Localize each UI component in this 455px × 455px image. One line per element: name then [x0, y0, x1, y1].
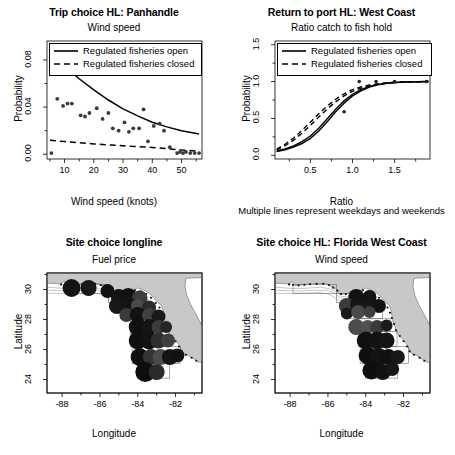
data-point — [193, 151, 197, 155]
coast-marker — [309, 283, 311, 285]
x-tick-label: -86 — [314, 399, 342, 409]
data-point — [168, 145, 172, 149]
data-point — [83, 115, 87, 119]
coast-marker — [413, 354, 415, 356]
coast-marker — [389, 312, 391, 314]
figure-note: Multiple lines represent weekdays and we… — [228, 205, 455, 216]
y-tick-label: 26 — [23, 336, 33, 362]
panel-site-choice-longline: Site choice longlineFuel price-88-86-84-… — [0, 230, 228, 455]
dashed-line-swatch-icon — [281, 59, 307, 69]
y-axis-label: Probability — [13, 69, 24, 129]
data-point — [188, 151, 192, 155]
y-tick-label: 0.5 — [251, 104, 261, 130]
coast-marker — [60, 283, 62, 285]
data-point — [79, 113, 83, 117]
data-point — [66, 102, 70, 106]
coast-marker — [298, 284, 300, 286]
data-point — [70, 102, 74, 106]
panel-return-to-port-west-coast: Return to port HL: West CoastRatio catch… — [228, 0, 455, 215]
panel-site-choice-hl-florida-west-coast: Site choice HL: Florida West CoastWind s… — [228, 230, 455, 455]
data-point — [49, 151, 53, 155]
legend-item: Regulated fisheries closed — [278, 57, 431, 70]
x-tick-label: -88 — [276, 399, 304, 409]
legend-label: Regulated fisheries closed — [311, 58, 422, 69]
coast-marker — [191, 357, 193, 359]
data-point — [111, 126, 115, 130]
coast-marker — [340, 293, 342, 295]
coast-marker — [408, 350, 410, 352]
coast-marker — [386, 306, 388, 308]
plot-area — [0, 0, 228, 215]
coast-marker — [362, 289, 364, 291]
site-bubble — [341, 308, 353, 320]
plot-area — [228, 230, 455, 455]
data-point — [88, 111, 92, 115]
x-tick-label: -84 — [352, 399, 380, 409]
legend-label: Regulated fisheries open — [83, 45, 188, 56]
series-line — [277, 82, 429, 150]
site-bubble — [63, 279, 81, 297]
legend: Regulated fisheries openRegulated fisher… — [49, 43, 202, 76]
data-point — [123, 121, 127, 125]
map-layer — [47, 273, 208, 382]
x-axis-label: Wind speed (knots) — [0, 196, 228, 207]
data-point — [162, 129, 166, 133]
y-axis-label: Latitude — [13, 302, 24, 362]
coast-marker — [100, 284, 102, 286]
y-tick-label: 0.0 — [251, 141, 261, 167]
site-bubble — [381, 320, 393, 332]
y-tick-label: 0.00 — [23, 140, 33, 166]
y-axis-label: Latitude — [241, 302, 252, 362]
data-point — [197, 151, 201, 155]
y-axis-label: Probability — [241, 69, 252, 129]
legend-label: Regulated fisheries closed — [83, 58, 194, 69]
coast-marker — [178, 345, 180, 347]
x-tick-label: -82 — [162, 399, 190, 409]
data-point — [142, 108, 146, 112]
data-point — [374, 80, 378, 84]
x-tick-label: 20 — [80, 165, 108, 175]
data-point — [61, 104, 65, 108]
coast-marker — [322, 283, 324, 285]
legend-label: Regulated fisheries open — [311, 45, 416, 56]
coast-marker — [345, 293, 347, 295]
site-bubble — [161, 334, 175, 348]
y-tick-label: 24 — [251, 366, 261, 392]
site-bubble — [391, 350, 405, 364]
data-point — [95, 106, 99, 110]
data-point — [152, 124, 156, 128]
coast-marker — [195, 360, 197, 362]
legend-item: Regulated fisheries closed — [50, 57, 201, 70]
solid-line-swatch-icon — [53, 46, 79, 56]
panel-trip-choice-panhandle: Trip choice HL: PanhandleWind speed10203… — [0, 0, 228, 215]
y-tick-label: 28 — [23, 306, 33, 332]
data-point — [117, 129, 121, 133]
site-bubble — [385, 362, 399, 376]
site-bubble — [364, 306, 376, 318]
coast-marker — [288, 283, 290, 285]
data-point — [158, 122, 162, 126]
coast-marker — [158, 306, 160, 308]
map-layer — [275, 273, 436, 380]
site-bubble — [351, 305, 365, 319]
y-tick-label: 28 — [251, 306, 261, 332]
coast-marker — [378, 297, 380, 299]
data-point — [55, 97, 59, 101]
coast-marker — [395, 329, 397, 331]
y-tick-label: 30 — [23, 276, 33, 302]
data-point — [184, 150, 188, 154]
coast-marker — [402, 340, 404, 342]
x-tick-label: 40 — [138, 165, 166, 175]
coast-marker — [393, 323, 395, 325]
x-tick-label: -84 — [124, 399, 152, 409]
dashed-line-swatch-icon — [53, 59, 79, 69]
coast-marker — [336, 290, 338, 292]
legend: Regulated fisheries openRegulated fisher… — [277, 43, 432, 76]
y-tick-label: 0.08 — [23, 46, 33, 72]
coast-marker — [419, 357, 421, 359]
coast-marker — [150, 297, 152, 299]
x-tick-label: 10 — [51, 165, 79, 175]
site-bubble — [170, 349, 184, 363]
site-bubble — [379, 333, 395, 349]
x-tick-label: -82 — [390, 399, 418, 409]
